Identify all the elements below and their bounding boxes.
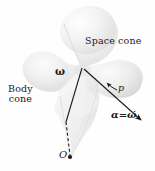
- figure-body-space-cone: Space cone Body cone ω p α=ω̇ O: [0, 0, 155, 171]
- label-omega-dot: ω̇: [127, 109, 137, 120]
- label-body-cone-line2: cone: [8, 94, 33, 104]
- label-p-axis: p: [118, 83, 124, 93]
- label-body-cone: Body cone: [8, 84, 33, 104]
- label-equals: =: [119, 109, 127, 120]
- apex-shading: [73, 64, 91, 76]
- label-omega-vector: ω: [55, 66, 65, 77]
- origin-point-marker: [68, 155, 72, 159]
- label-origin: O: [59, 150, 67, 161]
- label-alpha-symbol: α: [111, 109, 119, 120]
- label-alpha-equation: α=ω̇: [111, 110, 137, 121]
- label-space-cone: Space cone: [85, 36, 142, 46]
